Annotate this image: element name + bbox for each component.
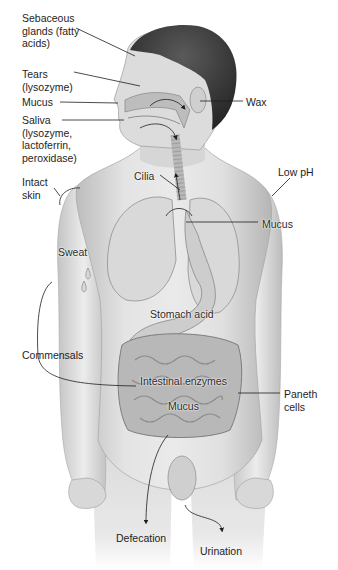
label-paneth-cells: Paneth cells — [284, 388, 317, 413]
label-sebaceous-glands: Sebaceous glands (fatty acids) — [22, 12, 79, 50]
label-tears: Tears (lysozyme) — [22, 68, 73, 93]
label-defecation: Defecation — [116, 532, 166, 545]
label-low-ph: Low pH — [278, 166, 314, 179]
genitals — [168, 456, 196, 500]
label-urination: Urination — [200, 545, 242, 558]
label-wax: Wax — [246, 96, 267, 109]
label-stomach-acid: Stomach acid — [150, 308, 214, 321]
label-mucus-lung: Mucus — [262, 218, 293, 231]
label-cilia: Cilia — [134, 170, 154, 183]
head — [114, 25, 237, 150]
label-mucus-nose: Mucus — [22, 96, 53, 109]
label-mucus-gut: Mucus — [168, 400, 199, 413]
label-intact-skin: Intact skin — [22, 176, 48, 201]
label-commensals: Commensals — [22, 349, 83, 362]
label-intestinal-enzymes: Intestinal enzymes — [140, 375, 227, 388]
label-sweat: Sweat — [58, 246, 87, 259]
label-saliva: Saliva (lysozyme, lactoferrin, peroxidas… — [22, 114, 77, 164]
ear — [190, 87, 206, 113]
